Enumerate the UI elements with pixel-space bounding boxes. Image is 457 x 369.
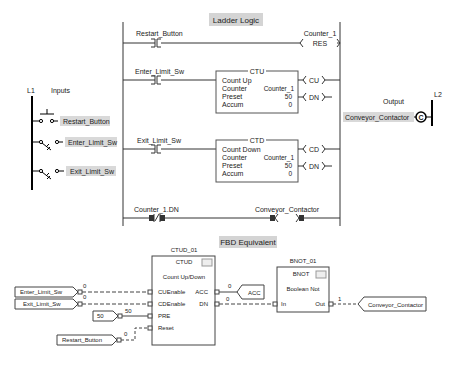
l1-label: L1 (27, 87, 35, 94)
ctud-desc: Count Up/Down (163, 274, 205, 280)
ctd-counter-value: Counter_1 (264, 154, 295, 162)
ctu-desc: Count Up (222, 77, 252, 85)
ctd-accum-label: Accum (222, 170, 244, 177)
const-pre-value: 50 (97, 313, 104, 319)
rung1-coil: RES (313, 40, 328, 47)
input-enter-limit-sw: Enter_Limit_Sw (68, 139, 118, 147)
rung1-contact-label: Restart_Button (136, 30, 183, 38)
wire-value-dn: 0 (226, 296, 230, 302)
ctd-dn-output: DN (309, 163, 319, 170)
nc-contact-icon (154, 214, 160, 222)
diagram-canvas: Ladder Logic Restart_Button Counter_1 RE… (0, 0, 457, 369)
ctd-counter-label: Counter (222, 154, 248, 161)
block-properties-icon[interactable] (202, 259, 212, 266)
rung4-contact-label: Counter_1.DN (134, 206, 179, 214)
ladder-title: Ladder Logic (213, 16, 259, 25)
rung-4: Counter_1.DN Conveyor_Contactor (123, 206, 340, 222)
bnot-input-in: In (281, 301, 286, 307)
ctud-name: CTUD_01 (171, 247, 198, 253)
ctu-counter-label: Counter (222, 85, 248, 92)
ctud-type: CTUD (176, 259, 193, 265)
rung3-contact-label: Exit_Limit_Sw (137, 137, 182, 145)
bnot-output-out: Out (315, 301, 325, 307)
coil-icon (275, 214, 299, 222)
ctu-accum-value: 0 (288, 101, 292, 108)
wire-value-cu: 0 (83, 283, 87, 289)
output-ref-acc-label: ACC (248, 290, 261, 296)
ctd-preset-value: 50 (285, 162, 293, 169)
bnot-name: BNOT_01 (290, 258, 317, 264)
fbd-title: FBD Equivalent (220, 238, 276, 247)
ctud-output-acc: ACC (195, 289, 208, 295)
input-exit-limit-sw: Exit_Limit_Sw (70, 168, 115, 176)
output-panel: L2 Output Conveyor_Contactor C (343, 91, 442, 126)
inputs-title: Inputs (51, 87, 71, 95)
fbd-equivalent: FBD Equivalent CTUD_01 CTUD Count Up/Dow… (15, 236, 426, 345)
ctu-cu-output: CU (309, 77, 319, 84)
l2-label: L2 (434, 91, 442, 98)
ctd-accum-value: 0 (288, 170, 292, 177)
wire-value-reset: 0 (124, 331, 128, 337)
ctud-input-reset: Reset (158, 325, 174, 331)
coil-letter: C (418, 114, 423, 121)
rung-3: Exit_Limit_Sw CTD Count Down Counter Cou… (123, 136, 340, 182)
wire-value-acc: 0 (228, 283, 232, 289)
wire-value-cd: 0 (83, 294, 87, 300)
ctd-desc: Count Down (222, 146, 261, 153)
inputs-panel: L1 Inputs Restart_Button Enter_Limit_Sw … (27, 87, 118, 190)
wire-value-pre: 50 (125, 308, 132, 314)
ctu-counter-value: Counter_1 (264, 85, 295, 93)
bnot-desc: Boolean Not (286, 286, 319, 292)
rung2-contact-label: Enter_Limit_Sw (135, 68, 185, 76)
input-restart-button: Restart_Button (63, 118, 110, 126)
ladder-logic: Ladder Logic Restart_Button Counter_1 RE… (123, 13, 340, 226)
ctud-input-cdenable: CDEnable (158, 301, 186, 307)
rung4-coil-tag: Conveyor_Contactor (255, 206, 320, 214)
output-ref-conveyor-label: Conveyor_Contactor (368, 302, 423, 308)
output-conveyor-contactor: Conveyor_Contactor (345, 114, 410, 122)
ctud-output-dn: DN (199, 301, 208, 307)
rung-2: Enter_Limit_Sw CTU Count Up Counter Coun… (123, 67, 340, 113)
rung1-coil-tag: Counter_1 (304, 30, 337, 38)
input-ref-exit-label: Exit_Limit_Sw (23, 301, 61, 307)
ctd-preset-label: Preset (222, 162, 242, 169)
ctu-type: CTU (250, 68, 264, 75)
block-properties-icon[interactable] (316, 271, 326, 278)
input-ref-restart-label: Restart_Button (62, 337, 102, 343)
ctu-accum-label: Accum (222, 101, 244, 108)
ctu-preset-value: 50 (285, 93, 293, 100)
ctd-cd-output: CD (309, 146, 319, 153)
bnot-type: BNOT (293, 271, 310, 277)
wire-value-out: 1 (338, 296, 342, 302)
ctud-input-pre: PRE (158, 313, 170, 319)
ctud-input-cuenable: CUEnable (158, 289, 186, 295)
ctd-type: CTD (250, 137, 264, 144)
ctu-dn-output: DN (309, 94, 319, 101)
rung-1: Restart_Button Counter_1 RES (123, 30, 340, 47)
input-ref-enter-label: Enter_Limit_Sw (20, 289, 63, 295)
pushbutton-icon (39, 119, 42, 122)
ctu-preset-label: Preset (222, 93, 242, 100)
output-title: Output (383, 98, 404, 106)
